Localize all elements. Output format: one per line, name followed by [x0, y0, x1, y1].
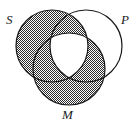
set-label-m: M [62, 108, 73, 121]
set-label-p: P [121, 13, 129, 26]
set-label-s: S [6, 13, 13, 26]
venn-diagram-figure: S P M [0, 0, 137, 126]
shaded-regions-group [16, 10, 105, 105]
